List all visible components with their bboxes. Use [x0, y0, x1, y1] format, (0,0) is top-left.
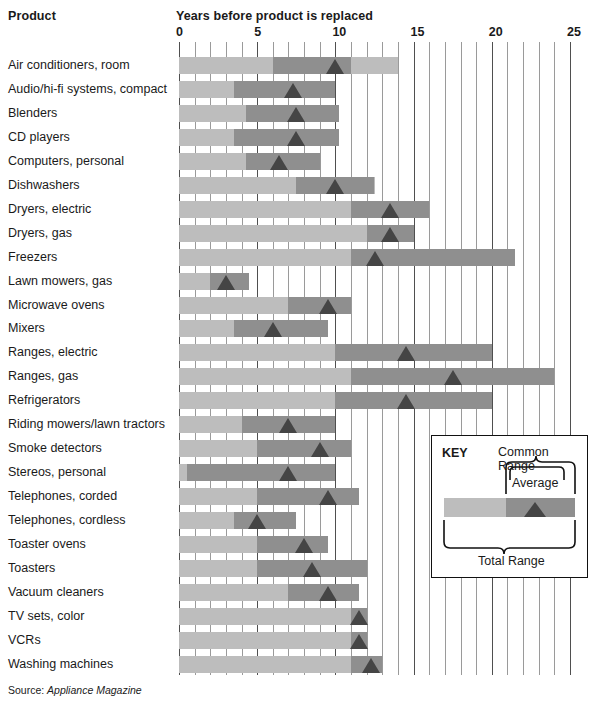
plot-area: [179, 42, 571, 675]
average-marker-icon: [311, 442, 329, 457]
average-marker-icon: [248, 514, 266, 529]
x-axis-tick-15: 15: [411, 25, 425, 39]
table-row: [179, 177, 571, 194]
table-row: [179, 105, 571, 122]
table-row: [179, 584, 571, 601]
table-row: [179, 153, 571, 170]
product-label: Dishwashers: [8, 178, 80, 192]
product-label: TV sets, color: [8, 609, 84, 623]
common-range-bar: [187, 464, 336, 481]
average-marker-icon: [319, 299, 337, 314]
x-axis-tick-10: 10: [332, 25, 346, 39]
product-label: Toaster ovens: [8, 537, 86, 551]
average-marker-icon: [350, 610, 368, 625]
table-row: [179, 129, 571, 146]
average-marker-icon: [284, 83, 302, 98]
product-label: Telephones, cordless: [8, 513, 125, 527]
source-name: Appliance Magazine: [47, 684, 142, 696]
product-label: Computers, personal: [8, 154, 124, 168]
product-label: Washing machines: [8, 657, 113, 671]
legend-key-box: KEY Common Range Average Total Range: [431, 435, 588, 578]
x-axis-tick-20: 20: [489, 25, 503, 39]
average-marker-icon: [381, 203, 399, 218]
product-label: Lawn mowers, gas: [8, 274, 112, 288]
table-row: [179, 344, 571, 361]
average-marker-icon: [295, 538, 313, 553]
product-label: Telephones, corded: [8, 489, 117, 503]
source-note: Source: Appliance Magazine: [8, 684, 142, 696]
table-row: [179, 249, 571, 266]
product-label: Riding mowers/lawn tractors: [8, 417, 165, 431]
product-label: Audio/hi-fi systems, compact: [8, 82, 167, 96]
average-marker-icon: [279, 418, 297, 433]
common-range-bar: [234, 129, 339, 146]
key-braces: [432, 436, 589, 579]
average-marker-icon: [326, 179, 344, 194]
table-row: [179, 225, 571, 242]
source-label: Source:: [8, 684, 44, 696]
table-row: [179, 656, 571, 673]
average-marker-icon: [326, 59, 344, 74]
total-range-bar: [179, 632, 367, 649]
average-marker-icon: [381, 227, 399, 242]
product-label: Mixers: [8, 321, 45, 335]
table-row: [179, 392, 571, 409]
average-marker-icon: [303, 562, 321, 577]
product-label: Ranges, gas: [8, 369, 78, 383]
table-row: [179, 273, 571, 290]
common-range-bar: [257, 536, 327, 553]
product-label: Microwave ovens: [8, 298, 105, 312]
average-marker-icon: [350, 634, 368, 649]
x-axis-tick-25: 25: [567, 25, 581, 39]
average-marker-icon: [362, 658, 380, 673]
product-label: Vacuum cleaners: [8, 585, 104, 599]
product-label: Blenders: [8, 106, 57, 120]
common-range-bar: [257, 488, 359, 505]
product-label: CD players: [8, 130, 70, 144]
average-marker-icon: [287, 131, 305, 146]
average-marker-icon: [397, 346, 415, 361]
average-marker-icon: [366, 251, 384, 266]
product-label: Ranges, electric: [8, 345, 98, 359]
average-marker-icon: [444, 370, 462, 385]
x-axis-tick-5: 5: [254, 25, 261, 39]
table-row: [179, 81, 571, 98]
product-label: Stereos, personal: [8, 465, 106, 479]
table-row: [179, 368, 571, 385]
table-row: [179, 608, 571, 625]
average-marker-icon: [264, 322, 282, 337]
table-row: [179, 416, 571, 433]
total-range-bar: [179, 608, 367, 625]
years-column-header: Years before product is replaced: [176, 9, 373, 23]
table-row: [179, 320, 571, 337]
common-range-bar: [257, 440, 351, 457]
average-marker-icon: [319, 586, 337, 601]
product-label: Dryers, gas: [8, 226, 72, 240]
appliance-lifespan-chart: Product Years before product is replaced…: [0, 0, 598, 710]
x-axis-tick-0: 0: [176, 25, 183, 39]
table-row: [179, 201, 571, 218]
average-marker-icon: [287, 107, 305, 122]
average-marker-icon: [319, 490, 337, 505]
table-row: [179, 297, 571, 314]
average-marker-icon: [270, 155, 288, 170]
product-label: Toasters: [8, 561, 55, 575]
product-label: VCRs: [8, 633, 41, 647]
table-row: [179, 57, 571, 74]
average-marker-icon: [279, 466, 297, 481]
product-column-header: Product: [8, 9, 56, 23]
product-label: Smoke detectors: [8, 441, 102, 455]
average-marker-icon: [397, 394, 415, 409]
product-label: Dryers, electric: [8, 202, 91, 216]
product-label: Freezers: [8, 250, 57, 264]
table-row: [179, 632, 571, 649]
average-marker-icon: [217, 275, 235, 290]
product-label: Refrigerators: [8, 393, 80, 407]
product-label: Air conditioners, room: [8, 58, 130, 72]
